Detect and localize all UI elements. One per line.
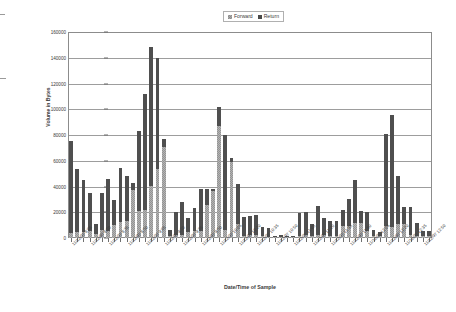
bar-series-container (68, 32, 432, 238)
bar-segment-return (82, 180, 86, 232)
y-axis-title: Volume in Bytes (45, 47, 51, 167)
bar-segment-return (100, 193, 104, 230)
stacked-bar (69, 141, 73, 238)
y-axis-tick-label: 100000 (51, 107, 66, 112)
bar-segment-return (341, 210, 345, 226)
x-axis-title: Date/Time of Sample (68, 284, 432, 290)
bar-segment-return (149, 47, 153, 186)
bar-segment-forward (131, 190, 135, 238)
bar-segment-forward (217, 126, 221, 238)
y-axis-tick-label: 160000 (51, 30, 66, 35)
bar-segment-return (347, 199, 351, 226)
bar-slot (426, 32, 432, 238)
stacked-bar (143, 94, 147, 238)
chart-screenshot: Forward Return 0200004000060000800001000… (0, 0, 456, 312)
stacked-bar (112, 200, 116, 238)
chart-legend: Forward Return (223, 11, 284, 22)
bar-segment-return (217, 107, 221, 126)
bar-segment-return (156, 58, 160, 169)
bar-segment-return (75, 169, 79, 231)
y-axis-tick-label: 80000 (53, 133, 66, 138)
legend-label-forward: Forward (234, 13, 253, 20)
bar-segment-return (409, 207, 413, 235)
y-axis-tick-label: 0 (63, 236, 66, 241)
bar-segment-return (131, 183, 135, 190)
bar-segment-return (137, 131, 141, 211)
legend-entry-forward: Forward (228, 13, 253, 20)
stacked-bar (131, 183, 135, 238)
bar-segment-return (236, 184, 240, 225)
bar-segment-return (298, 213, 302, 237)
bar-segment-return (94, 224, 98, 234)
stacked-bar (156, 58, 160, 238)
bar-segment-forward (205, 205, 209, 238)
bar-segment-return (396, 176, 400, 223)
legend-swatch-return-icon (258, 15, 262, 19)
stacked-bar (162, 139, 166, 238)
bar-segment-return (112, 200, 116, 225)
bar-segment-return (242, 217, 246, 235)
y-axis-tick-label: 40000 (53, 184, 66, 189)
stacked-bar (205, 189, 209, 238)
stacked-bar (316, 206, 320, 238)
bar-segment-return (316, 206, 320, 235)
legend-entry-return: Return (258, 13, 279, 20)
bar-segment-return (125, 176, 129, 220)
stacked-bar (353, 180, 357, 238)
bar-segment-forward (230, 162, 234, 238)
stacked-bar (137, 131, 141, 238)
bar-segment-return (402, 207, 406, 224)
y-axis-tick-label: 60000 (53, 158, 66, 163)
y-axis: 0200004000060000800001000001200001400001… (40, 32, 66, 238)
stacked-bar (223, 135, 227, 238)
bar-segment-return (162, 139, 166, 147)
scan-artifact-left (0, 78, 6, 79)
bar-segment-return (390, 115, 394, 227)
bar-segment-return (223, 135, 227, 230)
legend-label-return: Return (264, 13, 279, 20)
bar-segment-forward (149, 186, 153, 238)
bar-segment-return (69, 141, 73, 232)
legend-swatch-forward-icon (228, 15, 232, 19)
bar-segment-return (186, 218, 190, 231)
y-axis-tick-label: 120000 (51, 81, 66, 86)
scan-artifact-top (0, 14, 5, 15)
bar-segment-return (205, 189, 209, 204)
bar-segment-return (353, 180, 357, 223)
stacked-bar (217, 107, 221, 238)
x-axis-labels: 11/12/97 8:0511/12/97 8:2011/12/97 8:351… (68, 243, 432, 283)
stacked-bar (390, 115, 394, 238)
bar-segment-return (119, 168, 123, 221)
bar-segment-return (384, 134, 388, 225)
stacked-bar (230, 158, 234, 238)
y-axis-tick-label: 140000 (51, 55, 66, 60)
stacked-bar (75, 169, 79, 238)
stacked-bar (149, 47, 153, 238)
bar-segment-return (143, 94, 147, 210)
bar-segment-return (359, 211, 363, 222)
y-axis-tick-label: 20000 (53, 210, 66, 215)
